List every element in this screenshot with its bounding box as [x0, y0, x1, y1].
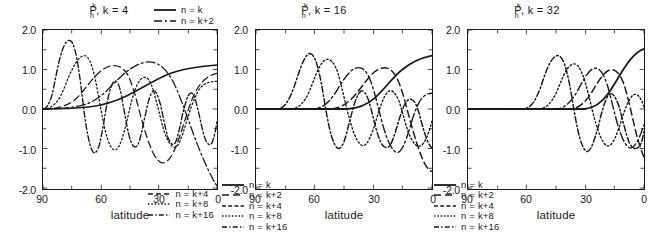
legend-bottom-k-4: n = k+4 n = k+8 n = k+16 — [147, 189, 214, 221]
legend-label: n = k+8 — [175, 199, 208, 210]
y-tick-m1: -1.0 — [426, 144, 460, 156]
y-tick-2: 2.0 — [214, 24, 248, 36]
title-subscript: n — [515, 12, 519, 19]
y-tick-1: 1.0 — [426, 64, 460, 76]
legend-item: n = k+8 — [147, 199, 214, 210]
panel-k-4: Pkn, k = 4 2.0 1.0 0.0 -1.0 -2.0 — [0, 0, 218, 238]
panel-k-32: Pkn, k = 32 2.0 1.0 0.0 -1.0 -2.0 — [427, 0, 647, 238]
legend-key-dashed — [433, 190, 457, 200]
title-subscript: n — [302, 12, 306, 19]
y-tick-0: 0.0 — [0, 104, 36, 116]
x-tick-30: 30 — [573, 193, 599, 205]
curve-n-k — [43, 65, 217, 109]
legend-label: n = k+2 — [461, 190, 494, 201]
plot-area-k-16 — [255, 29, 433, 190]
legend-item: n = k+8 — [221, 211, 288, 222]
plot-area-k-4 — [42, 29, 218, 190]
legend-top-k-4: n = k n = k+2 — [153, 5, 214, 26]
curves-k-32 — [468, 30, 644, 189]
title-suffix: , k = 32 — [521, 4, 560, 16]
legend-k-32: n = k n = k+2 n = k+4 n = k+8 n = k+16 — [433, 180, 500, 233]
curve-n-k-plus-8 — [468, 64, 644, 146]
title-superscript: k — [92, 2, 96, 9]
legend-label: n = k+8 — [249, 211, 282, 222]
y-tick-m1: -1.0 — [0, 144, 36, 156]
curve-n-k-plus-16 — [468, 56, 644, 152]
legend-k-16: n = k n = k+2 n = k+4 n = k+8 n = k+16 — [221, 180, 288, 233]
legend-label: n = k+2 — [181, 16, 214, 27]
legend-label: n = k+16 — [175, 210, 214, 221]
legend-key-dashed — [147, 189, 171, 199]
legend-key-dash-dot-short — [433, 201, 457, 211]
legend-item: n = k+8 — [433, 211, 500, 222]
legend-item: n = k+16 — [147, 210, 214, 221]
legend-item: n = k+2 — [153, 16, 214, 27]
legend-key-dotted — [147, 199, 171, 209]
x-tick-0: 0 — [631, 193, 652, 205]
x-tick-30: 30 — [361, 193, 387, 205]
legend-key-dash-dot — [147, 210, 171, 220]
title-superscript: k — [304, 2, 308, 9]
legend-key-dash-dot — [433, 222, 457, 232]
curve-n-k-plus-16 — [43, 40, 217, 152]
x-tick-60: 60 — [301, 193, 327, 205]
legend-key-dash-dot-short — [153, 16, 177, 26]
legend-item: n = k+16 — [221, 222, 288, 233]
curve-n-k-plus-2 — [468, 70, 644, 158]
curve-n-k-plus-2 — [256, 68, 432, 171]
y-tick-2: 2.0 — [0, 24, 36, 36]
legend-label: n = k+2 — [249, 190, 282, 201]
title-superscript: k — [517, 2, 521, 9]
legend-label: n = k+16 — [461, 222, 500, 233]
title-suffix: , k = 4 — [96, 4, 128, 16]
panel-k-16: Pkn, k = 16 2.0 1.0 0.0 -1.0 -2.0 — [215, 0, 433, 238]
legend-item: n = k+2 — [433, 190, 500, 201]
legend-label: n = k+8 — [461, 211, 494, 222]
curves-k-16 — [256, 30, 432, 189]
y-tick-m1: -1.0 — [214, 144, 248, 156]
legend-item: n = k+2 — [221, 190, 288, 201]
title-subscript: n — [90, 12, 94, 19]
legend-key-solid — [153, 5, 177, 15]
legend-key-solid — [433, 180, 457, 190]
legend-key-dash-dot-short — [221, 201, 245, 211]
legend-item: n = k — [153, 5, 214, 16]
legend-key-dotted — [221, 211, 245, 221]
panel-title-k-32: Pkn, k = 32 — [427, 4, 647, 16]
curve-n-k — [468, 49, 644, 109]
x-tick-90: 90 — [29, 193, 55, 205]
legend-label: n = k+16 — [249, 222, 288, 233]
y-tick-2: 2.0 — [426, 24, 460, 36]
y-tick-1: 1.0 — [0, 64, 36, 76]
curve-n-k-plus-4 — [43, 66, 217, 163]
y-tick-0: 0.0 — [426, 104, 460, 116]
y-tick-0: 0.0 — [214, 104, 248, 116]
legend-key-solid — [221, 180, 245, 190]
x-tick-60: 60 — [513, 193, 539, 205]
panel-title-k-16: Pkn, k = 16 — [215, 4, 433, 16]
legend-label: n = k — [181, 5, 203, 16]
legend-item: n = k+16 — [433, 222, 500, 233]
curves-k-4 — [43, 30, 217, 189]
legend-key-dashed — [221, 190, 245, 200]
legend-key-dash-dot — [221, 222, 245, 232]
y-tick-1: 1.0 — [214, 64, 248, 76]
plot-area-k-32 — [467, 29, 645, 190]
x-tick-60: 60 — [88, 193, 114, 205]
legend-key-dotted — [433, 211, 457, 221]
title-suffix: , k = 16 — [308, 4, 347, 16]
